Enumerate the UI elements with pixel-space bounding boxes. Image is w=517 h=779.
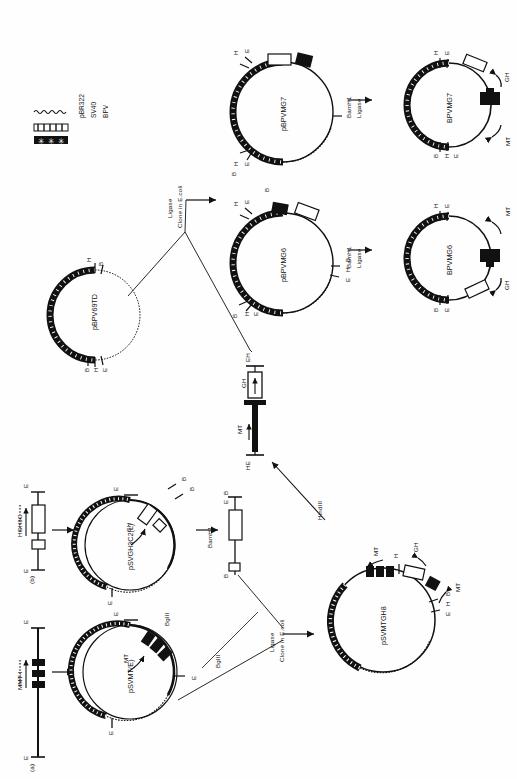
fragment-mt-gh [244, 366, 266, 455]
arrow-label-psvmte-mt: MT [122, 654, 129, 663]
plasmid-psvmtgh8 [330, 558, 446, 673]
fragment-bamh1 [196, 497, 242, 575]
figure-canvas: ✳ ✳ ✳ pBR322 SV40 BPV [0, 0, 517, 779]
site-mg7-b: B [230, 172, 237, 176]
site-psvgh-b2: B [188, 487, 195, 491]
plasmid-name-bpvmg7: BPVMG7 [445, 93, 454, 123]
step-bamh1-fragment: BamH1 [206, 526, 213, 548]
site-gh8-h: H [392, 553, 399, 558]
site-gh8-b: B [444, 592, 451, 596]
frag-bamh1-e: E [222, 500, 229, 504]
site-mg6-h3: H [344, 267, 351, 272]
connector-lines-bottom [178, 575, 314, 700]
site-pbpv69td-h: H [85, 257, 92, 262]
site-bpvmg7-h: H [432, 50, 439, 55]
site-mg6-h2: H [243, 311, 250, 316]
site-mg7-h: H [232, 50, 239, 55]
panel-b-e-top: E [22, 484, 29, 488]
site-mg6-h: H [232, 201, 239, 206]
site-bpvmg6-b: B [432, 308, 439, 312]
diagram-vectors [0, 0, 517, 779]
plasmid-name-pbpvmg6: pBPVMG6 [279, 248, 288, 282]
panel-b-e-bottom: E [22, 569, 29, 573]
plasmid-bpvmg7 [407, 54, 501, 152]
site-pbpv69td-e: E [101, 368, 108, 372]
plasmid-name-psvmtgh8: pSVMTGH8 [379, 606, 388, 645]
frag-label-eh: EH [244, 353, 251, 362]
step-ligase-bottom-line2: Clone in E.coli [278, 619, 285, 662]
plasmid-bpvmg6 [407, 211, 501, 305]
frag-label-mt: MT [236, 425, 243, 434]
site-mg6-b3: B [344, 258, 351, 262]
step-hindiii: HindIII [316, 501, 323, 520]
panel-a-e-bottom: E [22, 756, 29, 760]
site-bpvmg7-h2: H [443, 153, 450, 158]
site-bpvmg7-b: B [432, 154, 439, 158]
frag-bamh1-b-top: B [222, 491, 229, 495]
arrow-label-bpvmg7-gh: GH [503, 72, 510, 82]
site-pbpv69td-b: B [97, 262, 104, 266]
step-ligase-top-line1: Ligase [166, 199, 173, 218]
site-psvgh-e1: E [112, 487, 119, 491]
site-pbpv69td-h2: H [92, 367, 99, 372]
arrow-label-gh8-mt: MT [372, 547, 379, 556]
site-mg6-e3: E [344, 278, 351, 282]
step-bglii: BglII [214, 655, 221, 668]
gene-label-mmt1: MMT-I [16, 671, 23, 690]
step-bamh1-mg6-line2: Ligase [355, 249, 362, 268]
panel-b-linear [20, 492, 74, 570]
panel-a-e-top: E [22, 620, 29, 624]
step-ligase-bottom-line1: Ligase [268, 633, 275, 652]
site-mg7-e: E [243, 49, 250, 53]
cut-label-bglii-psvmte: BglII [163, 613, 170, 626]
site-gh8-h2: H [444, 601, 451, 606]
site-mg6-b2: B [231, 314, 238, 318]
site-mg7-e2: E [243, 162, 250, 166]
site-pbpv69td-b2: B [83, 368, 90, 372]
plasmid-name-pbpvmg7: pBPVMG7 [279, 97, 288, 131]
site-psvgh-e2: E [106, 601, 113, 605]
site-mg7-h2: H [232, 161, 239, 166]
site-mg6-e2: E [252, 312, 259, 316]
arrow-label-bpvmg6-gh: GH [503, 280, 510, 290]
site-bpvmg6-e: E [443, 204, 450, 208]
panel-a-linear [20, 628, 74, 757]
step-ligase-top-line2: Clone in E.coli [176, 185, 183, 228]
connector-center [250, 350, 252, 352]
frag-label-gh: GH [240, 378, 247, 388]
plasmid-name-bpvmg6: BPVMG6 [445, 245, 454, 275]
plasmid-name-psvmte: pSVMT(E) [126, 659, 135, 693]
step-bamh1-mg7-line1: BamH1 [345, 96, 352, 118]
arrow-label-bpvmg6-mt: MT [504, 207, 511, 216]
site-bpvmg7-e: E [443, 51, 450, 55]
step-bamh1-mg7-line2: Ligase [355, 99, 362, 118]
panel-label-b: (b) [28, 576, 35, 584]
site-psvgh-b1: B [180, 477, 187, 481]
site-psvmte-e1: E [112, 612, 119, 616]
panel-label-a: (a) [28, 764, 35, 772]
site-psvmte-e3: E [107, 731, 114, 735]
plasmid-name-pbpv69td: pBPV69TD [90, 294, 99, 330]
site-bpvmg7-e2: E [452, 154, 459, 158]
site-mg6-e: E [243, 200, 250, 204]
frag-bamh1-b-bottom: B [222, 574, 229, 578]
arrow-label-gh8-mt2: MT [454, 583, 461, 592]
site-psvmte-e2: E [190, 676, 197, 680]
frag-label-he: HE [244, 461, 251, 470]
arrow-label-bpvmg7-mt: MT [504, 137, 511, 146]
site-mg6-b: B [263, 188, 270, 192]
site-gh8-e: E [444, 612, 451, 616]
site-bpvmg6-e2: E [443, 308, 450, 312]
gene-label-hgh3c: HGH3C [16, 514, 23, 537]
site-bpvmg6-h: H [432, 203, 439, 208]
arrow-label-gh8-gh: GH [412, 542, 419, 552]
arrow-label-psvgh-gh: GH [125, 522, 132, 532]
